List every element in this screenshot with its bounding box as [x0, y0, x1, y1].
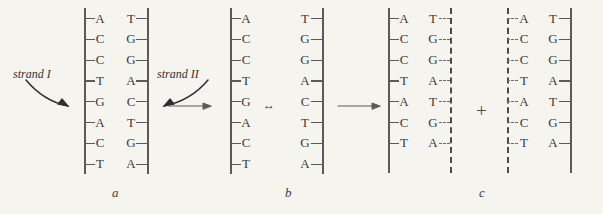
panel-c-caption: c [479, 185, 485, 201]
panel-a-right-base: C [124, 95, 138, 108]
panel-b-strand-two-base: C [298, 95, 312, 108]
replication-diagram: ATCGCGTAGCATCGTAaACCTGACTTGGACTGA↔bATCGC… [0, 0, 603, 214]
a-to-b-arrow [167, 99, 215, 113]
panel-a-right-base: G [124, 136, 138, 149]
panel-a-caption: a [112, 185, 119, 201]
panel-c-duplex-one-parental-base: T [397, 74, 411, 87]
panel-c-duplex-one-new-tick [439, 60, 450, 61]
panel-c-duplex-two-parental-base: G [546, 32, 560, 45]
panel-c-duplex-one-parental-base: A [397, 95, 411, 108]
panel-c-duplex-two-parental-tick [559, 143, 570, 144]
panel-c-duplex-one-new-base: G [426, 116, 440, 129]
panel-b-caption: b [285, 185, 292, 201]
panel-c-duplex-one-new-base: T [426, 12, 440, 25]
panel-b-strand-two-base: T [298, 12, 312, 25]
panel-c-duplex-one-parental-base: T [397, 136, 411, 149]
panel-b-strand-two-base: G [298, 53, 312, 66]
panel-a-left-base: A [93, 116, 107, 129]
panel-c-duplex-one-new-tick [439, 101, 450, 102]
panel-a-right-base: A [124, 74, 138, 87]
panel-b-strand-one-base: C [239, 53, 253, 66]
panel-c-duplex-one-parental-backbone [388, 8, 390, 173]
panel-c-duplex-two-parental-tick [559, 101, 570, 102]
panel-b-strand-one-base: A [239, 12, 253, 25]
panel-b-strand-two-tick [311, 143, 322, 144]
strand-one-pointer-arrow [22, 78, 84, 114]
panel-a-right-base: G [124, 32, 138, 45]
panel-c-duplex-two-parental-base: A [546, 136, 560, 149]
panel-c-duplex-one-parental-base: C [397, 53, 411, 66]
panel-c-duplex-one-new-base: A [426, 136, 440, 149]
panel-b-strand-two-base: A [298, 74, 312, 87]
panel-b-strand-one-base: A [239, 116, 253, 129]
panel-c-duplex-one-new-tick [439, 143, 450, 144]
panel-c-duplex-two-parental-backbone [570, 8, 572, 173]
panel-b-strand-two-backbone [322, 8, 324, 174]
panel-b-strand-one-base: C [239, 32, 253, 45]
panel-c-duplex-one-parental-base: C [397, 116, 411, 129]
panel-c-duplex-two-new-base: C [517, 53, 531, 66]
panel-c-duplex-one-new-base: G [426, 53, 440, 66]
panel-c-duplex-two-new-backbone [507, 8, 509, 173]
panel-c-duplex-one-parental-base: A [397, 12, 411, 25]
panel-b-strand-two-tick [311, 60, 322, 61]
panel-b-strand-one-base: C [239, 136, 253, 149]
panel-b-strand-two-base: A [298, 157, 312, 170]
panel-b-strand-two-base: G [298, 32, 312, 45]
strand-separation-double-arrow: ↔ [262, 99, 276, 112]
panel-c-duplex-two-new-base: A [517, 12, 531, 25]
panel-b-strand-two-tick [311, 18, 322, 19]
panel-a-left-base: T [93, 157, 107, 170]
panel-a-right-backbone [147, 8, 149, 174]
panel-a-right-base: T [124, 116, 138, 129]
panel-c-duplex-two-parental-base: G [546, 116, 560, 129]
panel-b-strand-one-backbone [230, 8, 232, 174]
panel-b-strand-one-base: G [239, 95, 253, 108]
panel-a-right-base: A [124, 157, 138, 170]
panel-c-duplex-one-new-base: T [426, 95, 440, 108]
panel-b-strand-two-tick [311, 164, 322, 165]
panel-a-left-base: C [93, 32, 107, 45]
panel-c-duplex-two-new-base: T [517, 74, 531, 87]
panel-a-right-base: T [124, 12, 138, 25]
panel-c-duplex-one-new-tick [439, 18, 450, 19]
panel-c-duplex-one-new-tick [439, 80, 450, 81]
panel-b-strand-two-base: T [298, 116, 312, 129]
panel-a-left-base: C [93, 136, 107, 149]
panel-c-duplex-two-parental-tick [559, 122, 570, 123]
panel-c-duplex-two-parental-tick [559, 39, 570, 40]
panel-b-strand-two-tick [311, 80, 322, 81]
panel-a-left-base: T [93, 74, 107, 87]
panel-c-duplex-two-parental-tick [559, 60, 570, 61]
panel-b-strand-one-base: T [239, 157, 253, 170]
panel-c-duplex-two-parental-base: T [546, 95, 560, 108]
panel-a-left-base: C [93, 53, 107, 66]
panel-a-right-base: G [124, 53, 138, 66]
panel-c-duplex-two-new-base: C [517, 116, 531, 129]
panel-c-duplex-one-new-backbone [450, 8, 452, 173]
panel-b-strand-one-base: T [239, 74, 253, 87]
panel-c-duplex-two-parental-base: T [546, 12, 560, 25]
panel-c-duplex-one-new-base: A [426, 74, 440, 87]
panel-c-duplex-two-parental-base: A [546, 74, 560, 87]
panel-c-duplex-one-new-base: G [426, 32, 440, 45]
panel-b-strand-two-base: G [298, 136, 312, 149]
b-to-c-arrow [336, 99, 384, 113]
panel-c-duplex-one-new-tick [439, 122, 450, 123]
panel-a-left-base: A [93, 12, 107, 25]
panel-b-strand-two-tick [311, 122, 322, 123]
panel-b-strand-two-tick [311, 101, 322, 102]
panel-c-duplex-two-new-base: A [517, 95, 531, 108]
panel-b-strand-two-tick [311, 39, 322, 40]
panel-c-plus-sign: + [476, 100, 487, 122]
panel-c-duplex-two-new-base: T [517, 136, 531, 149]
panel-c-duplex-one-new-tick [439, 39, 450, 40]
panel-a-left-base: G [93, 95, 107, 108]
panel-c-duplex-one-parental-base: C [397, 32, 411, 45]
panel-c-duplex-two-parental-tick [559, 80, 570, 81]
panel-a-left-backbone [84, 8, 86, 174]
panel-c-duplex-two-parental-base: G [546, 53, 560, 66]
panel-c-duplex-two-parental-tick [559, 18, 570, 19]
panel-c-duplex-two-new-base: C [517, 32, 531, 45]
